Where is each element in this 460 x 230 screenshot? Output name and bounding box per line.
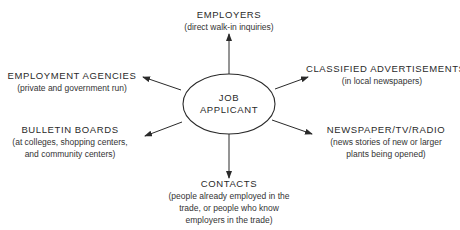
node-employers: EMPLOYERS (direct walk-in inquiries) (169, 9, 289, 33)
node-classified-ads: CLASSIFIED ADVERTISEMENTS (in local news… (306, 63, 458, 87)
node-subtitle: (at colleges, shopping centers, (0, 136, 140, 148)
node-subtitle: plants being opened) (316, 148, 456, 160)
node-subtitle: (private and government run) (4, 82, 140, 94)
node-subtitle: (in local newspapers) (306, 75, 458, 87)
center-label: JOB APPLICANT (189, 92, 269, 116)
arrow-to-bulletin-boards (145, 122, 182, 136)
arrow-to-newspaper-tv-radio (272, 120, 312, 134)
node-contacts: CONTACTS (people already employed in the… (154, 178, 304, 226)
node-bulletin-boards: BULLETIN BOARDS (at colleges, shopping c… (0, 124, 140, 160)
center-label-line2: APPLICANT (189, 104, 269, 116)
node-title: CONTACTS (154, 178, 304, 190)
node-subtitle: (news stories of new or larger (316, 136, 456, 148)
node-subtitle: trade, or people who know (154, 202, 304, 214)
node-subtitle: (people already employed in the (154, 190, 304, 202)
node-newspaper-tv-radio: NEWSPAPER/TV/RADIO (news stories of new … (316, 124, 456, 160)
node-title: BULLETIN BOARDS (0, 124, 140, 136)
node-subtitle: employers in the trade) (154, 214, 304, 226)
node-title: CLASSIFIED ADVERTISEMENTS (306, 63, 458, 75)
node-subtitle: (direct walk-in inquiries) (169, 21, 289, 33)
node-title: EMPLOYERS (169, 9, 289, 21)
node-employment-agencies: EMPLOYMENT AGENCIES (private and governm… (4, 70, 140, 94)
arrow-to-classified-ads (275, 77, 308, 89)
arrow-to-employment-agencies (143, 77, 181, 90)
node-title: NEWSPAPER/TV/RADIO (316, 124, 456, 136)
center-label-line1: JOB (189, 92, 269, 104)
node-title: EMPLOYMENT AGENCIES (4, 70, 140, 82)
node-subtitle: and community centers) (0, 148, 140, 160)
